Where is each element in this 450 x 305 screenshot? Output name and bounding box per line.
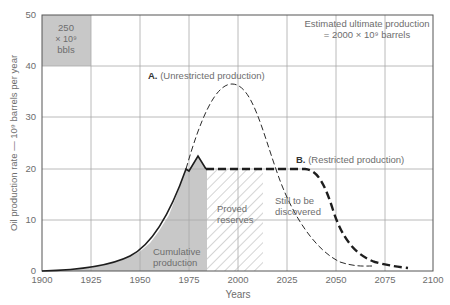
svg-text:2000: 2000 bbox=[227, 274, 248, 285]
svg-text:2025: 2025 bbox=[276, 274, 297, 285]
svg-text:1925: 1925 bbox=[80, 274, 101, 285]
curve-a-label: A. (Unrestricted production) bbox=[148, 70, 265, 81]
svg-text:2100: 2100 bbox=[422, 274, 443, 285]
svg-text:1950: 1950 bbox=[129, 274, 150, 285]
svg-text:1900: 1900 bbox=[31, 274, 52, 285]
scale-box-label: 250 bbox=[58, 22, 74, 33]
scale-box-label: bbls bbox=[57, 44, 75, 55]
svg-text:20: 20 bbox=[25, 163, 36, 174]
estimate-label: Estimated ultimate production bbox=[304, 18, 429, 29]
y-axis-label: Oil production rate — 10⁹ barrels per ye… bbox=[8, 55, 19, 231]
curve-b-label: B. (Restricted production) bbox=[296, 154, 404, 165]
svg-text:30: 30 bbox=[25, 111, 36, 122]
y-axis-ticks: 0 10 20 30 40 50 bbox=[25, 9, 36, 276]
cumulative-production-label: production bbox=[153, 257, 197, 268]
svg-text:10: 10 bbox=[25, 214, 36, 225]
svg-text:1975: 1975 bbox=[178, 274, 199, 285]
svg-text:2075: 2075 bbox=[374, 274, 395, 285]
still-to-be-discovered-label: discovered bbox=[275, 206, 321, 217]
scale-box-label: × 10⁹ bbox=[55, 34, 77, 44]
svg-text:2050: 2050 bbox=[325, 274, 346, 285]
estimate-label: = 2000 × 10⁹ barrels bbox=[324, 29, 411, 40]
svg-text:40: 40 bbox=[25, 60, 36, 71]
proved-reserves-label: reserves bbox=[217, 214, 254, 225]
proved-reserves-label: Proved bbox=[217, 203, 247, 214]
still-to-be-discovered-label: Still to be bbox=[275, 195, 314, 206]
x-axis-ticks: 1900 1925 1950 1975 2000 2025 2050 2075 … bbox=[31, 274, 443, 285]
svg-text:50: 50 bbox=[25, 9, 36, 20]
oil-production-chart: 250 × 10⁹ bbls Estimated ultimate produc… bbox=[0, 0, 450, 305]
x-axis-label: Years bbox=[225, 289, 250, 300]
cumulative-production-label: Cumulative bbox=[153, 246, 201, 257]
